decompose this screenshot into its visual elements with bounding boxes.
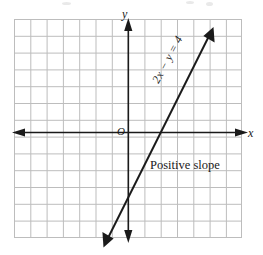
graph-screenshot: y x O 2x − y = 4 Positive slope [0,0,263,255]
scan-artifact [206,2,213,6]
positive-slope-annotation: Positive slope [150,159,220,172]
origin-label: O [117,126,125,137]
coordinate-plane-figure [0,0,263,255]
x-axis-label: x [248,127,253,139]
scan-artifact [186,1,194,4]
y-axis-label: y [122,8,127,20]
scan-artifact [62,2,71,5]
